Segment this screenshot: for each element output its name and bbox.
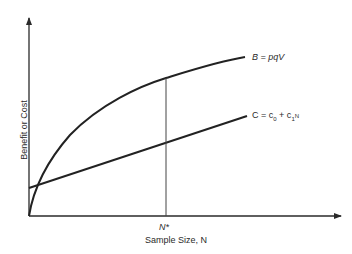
x-axis-label: Sample Size, N bbox=[145, 235, 207, 245]
cost-line-label: C = c0 + c1N bbox=[252, 110, 299, 122]
benefit-curve bbox=[29, 57, 245, 216]
cost-line bbox=[29, 116, 247, 188]
chart-canvas bbox=[0, 0, 352, 254]
benefit-cost-chart: Benefit or Cost Sample Size, N N* B = pq… bbox=[0, 0, 352, 254]
benefit-curve-label: B = pqV bbox=[252, 52, 284, 62]
n-star-label: N* bbox=[159, 222, 169, 232]
cost-label-mid: + c bbox=[277, 110, 292, 120]
cost-label-prefix: C = c bbox=[252, 110, 273, 120]
cost-label-suffix: N bbox=[295, 113, 299, 119]
y-axis-label: Benefit or Cost bbox=[19, 90, 29, 170]
